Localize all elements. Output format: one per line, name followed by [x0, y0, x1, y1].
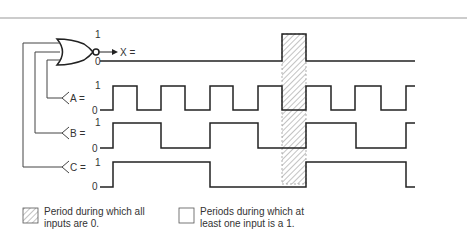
legend-empty-line1: Periods during which at — [200, 206, 304, 217]
hatched-all-inputs-zero-region — [282, 34, 306, 184]
x-level-1: 1 — [95, 29, 101, 40]
legend-hatched-line2: inputs are 0. — [44, 218, 99, 229]
inversion-bubble — [93, 49, 99, 55]
a-level-1: 1 — [95, 80, 101, 91]
legend-hatched-line1: Period during which all — [44, 206, 145, 217]
output-arrow-icon — [112, 49, 118, 55]
signal-label-b: B = — [70, 128, 85, 139]
signal-label-c: C = — [70, 162, 86, 173]
waveform-a — [100, 86, 415, 110]
signal-label-x: X = — [120, 47, 135, 58]
waveform-x — [100, 34, 415, 61]
waveforms — [100, 34, 415, 187]
probe-chevron-icons — [62, 92, 69, 173]
input-wires — [23, 43, 62, 167]
b-level-1: 1 — [95, 117, 101, 128]
waveform-c — [100, 162, 415, 187]
legend-empty-swatch — [179, 208, 194, 223]
a-level-0: 0 — [92, 105, 98, 116]
legend-hatched-swatch — [23, 208, 38, 223]
nor-timing-diagram: X = A = B = C = 1 0 1 0 1 0 1 0 Period d… — [0, 0, 467, 243]
signal-label-a: A = — [70, 93, 85, 104]
c-level-1: 1 — [95, 157, 101, 168]
b-level-0: 0 — [92, 143, 98, 154]
nor-gate — [57, 39, 99, 65]
legend-empty-line2: least one input is a 1. — [200, 218, 295, 229]
c-level-0: 0 — [92, 181, 98, 192]
waveform-b — [100, 123, 415, 148]
